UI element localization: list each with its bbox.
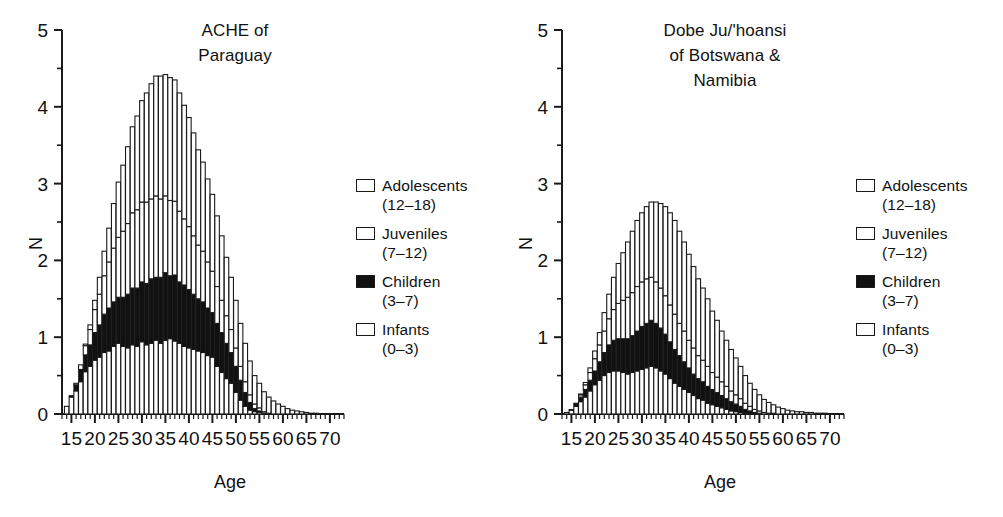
histogram-bar-segment [210,194,215,271]
histogram-bar-segment [687,254,692,340]
x-tick-label: 25 [108,428,129,449]
histogram-bar-segment [187,118,192,227]
legend-item-juveniles: Juveniles (7–12) [356,224,468,262]
x-tick-label: 65 [796,428,817,449]
histogram-bar-segment [564,412,569,414]
histogram-bar-segment [621,339,626,373]
histogram-bar-segment [630,336,635,373]
x-tick-label: 70 [319,428,340,449]
histogram-bar-segment [729,391,734,402]
histogram-bar-segment [607,294,612,319]
histogram-bar-segment [574,406,579,414]
histogram-bar-segment [635,331,640,371]
x-tick-label: 55 [249,428,270,449]
histogram-bar-segment [205,262,210,308]
histogram-bar-segment [229,330,234,353]
histogram-bar-segment [79,382,84,414]
x-tick-label: 70 [819,428,840,449]
histogram-bar-segment [823,413,828,414]
histogram-bar-segment [220,333,225,373]
histogram-bar-segment [748,383,753,406]
histogram-bar-segment [135,288,140,346]
histogram-bar-segment [126,224,131,295]
histogram-bar-segment [88,345,93,367]
histogram-bar-segment [649,277,654,320]
histogram-bar-segment [187,227,192,290]
histogram-bar-segment [621,373,626,414]
histogram-bar-segment [682,362,687,390]
histogram-bar-segment [635,371,640,414]
histogram-bar-segment [691,348,696,374]
x-tick-label: 65 [296,428,317,449]
histogram-bar-segment [154,277,159,340]
histogram-bar-segment [677,323,682,355]
histogram-bar-segment [673,383,678,414]
histogram-bar-segment [658,371,663,414]
histogram-bar-segment [644,323,649,368]
histogram-bar-segment [668,213,673,305]
histogram-bar-segment [290,410,295,414]
x-tick-label: 30 [631,428,652,449]
histogram-bar-segment [248,402,253,410]
histogram-bar-segment [734,358,739,395]
histogram-bar-segment [149,84,154,199]
histogram-bar-segment [804,412,809,414]
histogram-bar-segment [734,404,739,412]
histogram-bar-segment [597,380,602,414]
histogram-bar-segment [229,383,234,414]
histogram-bar-segment [691,374,696,396]
histogram-bar-segment [116,297,121,343]
histogram-bar-segment [163,196,168,273]
histogram-bar-segment [574,403,579,404]
histogram-bar-segment [97,294,102,325]
histogram-bar-segment [593,359,598,371]
histogram-bar-segment [752,389,757,409]
histogram-bar-segment [121,165,126,231]
histogram-bar-segment [93,333,98,361]
histogram-bar-segment [738,406,743,412]
x-axis-label-left: Age [120,472,340,493]
histogram-bar-segment [588,373,593,381]
histogram-bar-segment [177,282,182,343]
histogram-bar-segment [144,202,149,283]
histogram-bar-segment [640,213,645,282]
histogram-bar-segment [140,342,145,414]
x-tick-label: 25 [608,428,629,449]
legend-swatch-adolescents-icon [356,179,375,192]
panel-ache-paraguay: ACHE of Paraguay N Age 01234515202530354… [0,0,501,517]
histogram-bar-segment [107,308,112,351]
y-tick-label: 2 [37,250,48,271]
histogram-bar-segment [583,397,588,414]
histogram-bar-segment [785,410,790,414]
histogram-bar-segment [597,333,602,345]
histogram-bar-segment [593,371,598,385]
histogram-bar-segment [299,412,304,414]
histogram-bar-segment [738,399,743,407]
histogram-bar-segment [201,251,206,302]
histogram-bar-segment [644,368,649,414]
histogram-bar-segment [710,373,715,390]
histogram-bar-segment [644,207,649,279]
histogram-bar-segment [705,386,710,403]
histogram-bar-segment [163,75,168,196]
histogram-bar-segment [635,220,640,286]
histogram-bar-segment [696,356,701,379]
histogram-bar-segment [314,413,319,414]
histogram-bar-segment [771,405,776,413]
histogram-bar-segment [163,340,168,414]
histogram-bar-segment [238,380,243,400]
legend-swatch-infants-icon [356,323,375,336]
histogram-bar-segment [182,219,187,285]
histogram-bar-segment [121,231,126,297]
y-tick-label: 4 [537,97,548,118]
legend-label-infants: Infants (0–3) [882,320,929,358]
histogram-bar-segment [140,202,145,282]
histogram-bar-segment [102,251,107,276]
histogram-bar-segment [97,325,102,357]
histogram-bar-segment [588,380,593,391]
histogram-bar-segment [809,412,814,414]
x-tick-label: 60 [772,428,793,449]
histogram-bar-segment [715,393,720,407]
histogram-bar-segment [757,395,762,411]
legend-swatch-juveniles-icon [356,227,375,240]
